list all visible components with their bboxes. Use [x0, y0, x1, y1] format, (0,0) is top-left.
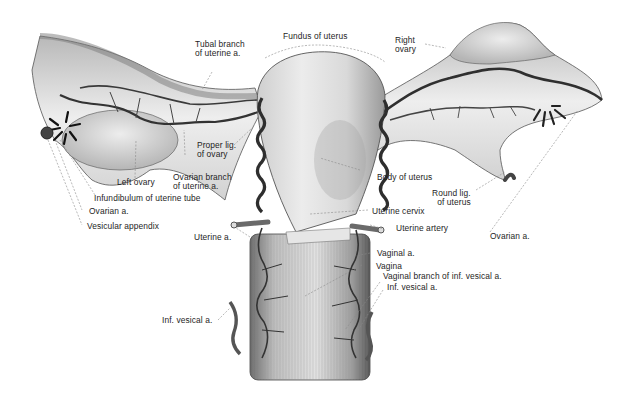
label-uterine-a: Uterine a.: [194, 233, 231, 242]
label-vagina: Vagina: [376, 262, 402, 271]
anatomical-illustration: Fundus of uterus Tubal branch of uterine…: [0, 0, 627, 404]
label-ovarian-a-right: Ovarian a.: [490, 232, 530, 241]
label-ovarian-branch: Ovarian branch of uterine a.: [173, 173, 232, 192]
label-body-of-uterus: Body of uterus: [377, 173, 432, 182]
label-infundibulum: Infundibulum of uterine tube: [94, 194, 201, 203]
uterus: [257, 52, 387, 232]
label-uterine-artery: Uterine artery: [396, 224, 448, 233]
label-fundus-of-uterus: Fundus of uterus: [283, 32, 347, 41]
label-left-ovary: Left ovary: [117, 178, 155, 187]
label-tubal-branch: Tubal branch of uterine a.: [195, 40, 245, 59]
label-right-ovary: Right ovary: [395, 36, 416, 55]
label-vaginal-branch: Vaginal branch of inf. vesical a.: [383, 272, 502, 281]
right-ovary-shape: [450, 23, 555, 64]
left-ovary-shape: [62, 110, 178, 170]
label-vesicular-appendix: Vesicular appendix: [87, 222, 159, 231]
label-round-lig-of-uterus: Round lig. of uterus: [432, 189, 471, 208]
vagina: [230, 222, 384, 380]
label-ovarian-a-left: Ovarian a.: [89, 207, 129, 216]
label-inf-vesical-a-left: Inf. vesical a.: [162, 316, 212, 325]
label-inf-vesical-a-right: Inf. vesical a.: [387, 283, 437, 292]
label-vaginal-a: Vaginal a.: [377, 249, 415, 258]
label-uterine-cervix: Uterine cervix: [372, 207, 425, 216]
label-proper-lig-of-ovary: Proper lig. of ovary: [197, 141, 236, 160]
